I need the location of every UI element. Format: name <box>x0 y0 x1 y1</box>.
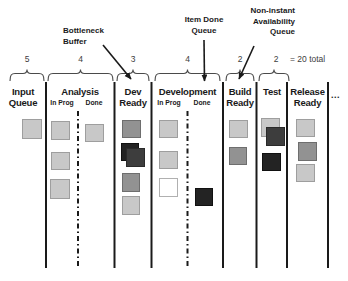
work-item-card-build-ready <box>229 120 248 138</box>
work-item-card-development-done <box>195 188 213 206</box>
annotation-line: Bottleneck <box>63 26 104 37</box>
header-line: Dev <box>115 86 151 97</box>
sublabel-development-done: Done <box>194 99 211 107</box>
annotation-line: Buffer <box>63 37 104 48</box>
count-dev-ready: 3 <box>131 54 136 64</box>
column-header-release-ready: Release Ready <box>287 86 328 108</box>
work-item-card-dev-ready <box>122 120 141 138</box>
annotation-line: Non-instant <box>251 6 295 17</box>
column-header-input-queue: Input Queue <box>0 86 46 108</box>
sublabel-analysis-in-prog: In Prog <box>50 99 73 107</box>
column-header-development: Development <box>152 86 223 97</box>
work-item-cards <box>0 0 348 281</box>
work-item-card-test <box>262 153 281 171</box>
work-item-card-build-ready <box>229 147 247 165</box>
work-item-card-development-inprog <box>159 120 178 138</box>
header-line: Test <box>257 86 287 97</box>
work-item-card-release-ready <box>296 164 315 182</box>
annotation-line: Availability <box>251 17 295 28</box>
work-item-card-release-ready <box>298 142 317 161</box>
annotation-line: Queue <box>251 27 295 38</box>
header-line: Ready <box>287 97 328 108</box>
header-line: Queue <box>0 97 46 108</box>
annotation-bottleneck-buffer: Bottleneck Buffer <box>63 26 104 47</box>
work-item-card-analysis-inprog <box>50 179 70 199</box>
work-item-card-test <box>266 127 285 146</box>
header-line: Development <box>152 86 223 97</box>
count-input-queue: 5 <box>25 54 30 64</box>
annotation-non-instant-availability-queue: Non-instant Availability Queue <box>251 6 295 38</box>
header-line: Release <box>287 86 328 97</box>
count-analysis: 4 <box>78 54 83 64</box>
sublabel-analysis-done: Done <box>86 99 103 107</box>
work-item-card-analysis-done <box>85 124 104 142</box>
column-header-dev-ready: Dev Ready <box>115 86 151 108</box>
work-item-card-analysis-inprog <box>51 121 70 140</box>
column-header-test: Test <box>257 86 287 97</box>
sublabel-development-in-prog: In Prog <box>157 99 180 107</box>
work-item-card-input-queue <box>22 119 42 139</box>
annotation-line: Item Done <box>185 15 224 26</box>
count-build-ready: 2 <box>238 54 243 64</box>
annotation-line: Queue <box>185 26 224 37</box>
count-development: 4 <box>185 54 190 64</box>
total-count-label: = 20 total <box>290 54 325 64</box>
work-item-card-dev-ready <box>126 148 145 167</box>
count-test: 2 <box>274 54 279 64</box>
header-line: Ready <box>115 97 151 108</box>
annotation-item-done-queue: Item Done Queue <box>185 15 224 36</box>
header-line: Analysis <box>46 86 114 97</box>
header-line: Build <box>223 86 257 97</box>
work-item-card-analysis-inprog <box>51 152 70 170</box>
work-item-card-development-inprog <box>159 178 178 197</box>
work-item-card-dev-ready <box>122 196 140 215</box>
work-item-card-development-inprog <box>159 151 178 169</box>
more-columns-ellipsis: ... <box>331 90 340 100</box>
kanban-board-diagram: Bottleneck Buffer Item Done Queue Non-in… <box>0 0 348 281</box>
column-header-build-ready: Build Ready <box>223 86 257 108</box>
work-item-card-dev-ready <box>122 173 140 192</box>
work-item-card-release-ready <box>296 119 315 137</box>
column-header-analysis: Analysis <box>46 86 114 97</box>
header-line: Input <box>0 86 46 97</box>
header-line: Ready <box>223 97 257 108</box>
